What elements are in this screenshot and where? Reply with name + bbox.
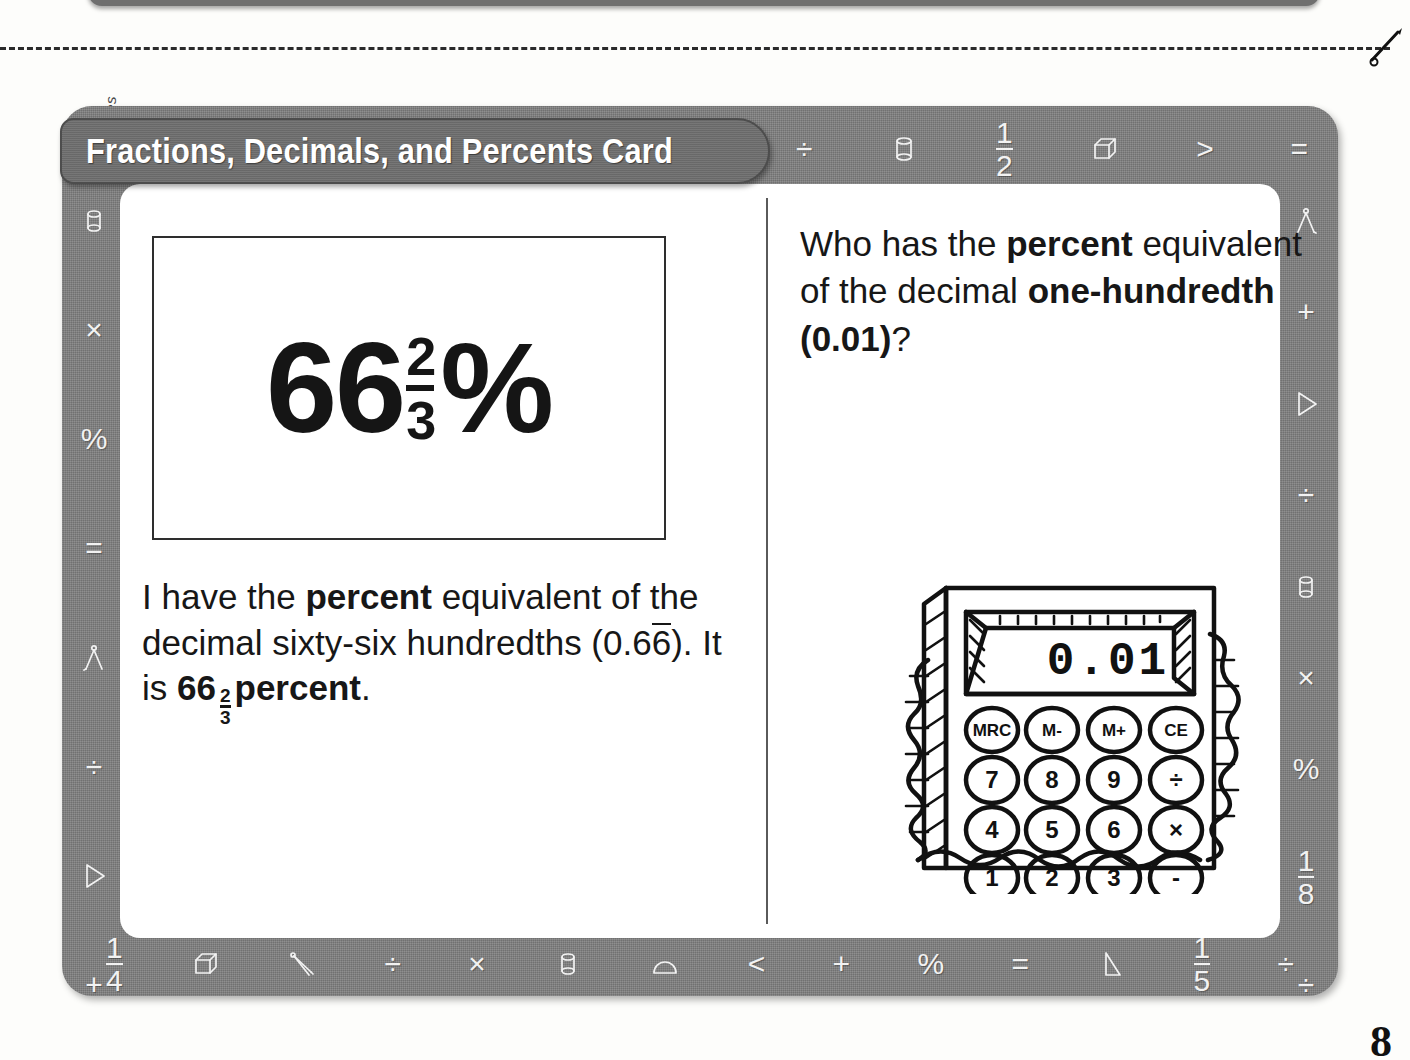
less-than-icon: < [748,949,766,979]
divide-icon: ÷ [385,949,401,979]
compass-icon [79,643,109,673]
question-text-c: ? [891,319,910,358]
greater-than-icon: > [1196,134,1214,164]
answer-box: 66 2 3 % [152,236,666,540]
cone-icon [1291,389,1321,419]
calculator-key-4: 4 [985,816,999,843]
calculator-key-m-minus: M- [1042,721,1062,740]
calculator-key-2: 2 [1045,864,1058,891]
multiply-icon: × [1297,663,1315,693]
protractor-icon [650,949,680,979]
one-eighth-fraction-icon: 1 8 [1298,846,1315,909]
one-half-fraction-icon: 1 2 [996,118,1013,181]
flash-card: ÷ 1 2 > = × % = ÷ + + [62,106,1338,996]
repeating-decimal-overline: 6 [652,623,671,660]
cylinder-icon [889,134,919,164]
statement-text-3b: ). [671,623,692,662]
answer-value: 66 2 3 % [266,329,552,447]
calculator-key-5: 5 [1045,816,1058,843]
previous-card-bottom-edge [88,0,1320,6]
cylinder-icon [79,206,109,236]
statement-value-whole: 66 [177,668,216,707]
card-title: Fractions, Decimals, and Percents Card [86,131,673,171]
i-have-statement: I have the percent equivalent of the dec… [142,574,732,727]
calculator-illustration: 0.01 MRC M- M+ CE 7 8 [880,564,1280,894]
statement-bold-percent: percent [305,577,431,616]
calculator-key-7: 7 [985,766,998,793]
one-fifth-fraction-icon: 1 5 [1194,933,1211,996]
calculator-key-minus: - [1172,864,1180,891]
statement-value-fraction: 23 [220,686,231,727]
statement-unit-percent: percent [235,668,361,707]
cut-along-dashed-line [0,47,1390,50]
percent-icon: % [1293,754,1320,784]
statement-text-1: I have the [142,577,305,616]
cone-icon [1096,949,1126,979]
calculator-key-ce: CE [1164,721,1188,740]
calculator-key-mrc: MRC [973,721,1012,740]
who-has-question: Who has the percent equivalent of the de… [800,220,1310,362]
answer-fraction: 2 3 [406,329,434,447]
cube-icon [190,949,220,979]
calculator-key-8: 8 [1045,766,1058,793]
question-bold-percent: percent [1006,224,1132,263]
statement-fraction-denominator: 3 [220,705,231,727]
multiply-icon: × [468,949,486,979]
calculator-key-6: 6 [1107,816,1120,843]
answer-fraction-numerator: 2 [406,329,434,383]
equals-icon: = [85,533,103,563]
statement-text-4b: . [361,668,371,707]
statement-fraction-numerator: 2 [220,686,231,705]
divide-icon: ÷ [1278,949,1294,979]
compass-icon [287,949,317,979]
calculator-key-1: 1 [985,864,998,891]
panel-divider [766,198,768,924]
calculator-key-9: 9 [1107,766,1120,793]
cone-icon [79,861,109,891]
card-title-banner: Fractions, Decimals, and Percents Card [60,118,770,184]
divide-icon: ÷ [796,134,812,164]
calculator-key-m-plus: M+ [1102,721,1126,740]
border-icon-strip-top: ÷ 1 2 > = [774,118,1330,180]
answer-fraction-denominator: 3 [406,385,434,447]
calculator-key-3: 3 [1107,864,1120,891]
divide-icon: ÷ [1298,480,1314,510]
calculator-display-value: 0.01 [1047,636,1169,688]
divide-icon: ÷ [86,752,102,782]
plus-icon: + [833,949,851,979]
equals-icon: = [1290,134,1308,164]
one-quarter-fraction-icon: 1 4 [106,933,123,996]
cylinder-icon [553,949,583,979]
statement-text-3a: sixty-six hundredths (0.6 [272,623,651,662]
equals-icon: = [1011,949,1029,979]
answer-whole-number: 66 [266,330,404,445]
border-icon-strip-left: × % = ÷ + [68,192,120,1014]
calculator-key-multiply: × [1169,816,1183,843]
card-face: 66 2 3 % I have the percent equivalent o… [120,184,1280,938]
percent-icon: % [81,424,108,454]
cylinder-icon [1291,572,1321,602]
question-text-a: Who has the [800,224,1006,263]
page-number: 8 [1370,1016,1392,1060]
cube-icon [1089,134,1119,164]
scissors-icon [1368,26,1408,68]
border-icon-strip-bottom: 1 4 ÷ × < + % = 1 5 ÷ [80,938,1320,990]
calculator-key-divide: ÷ [1169,766,1182,793]
percent-icon: % [917,949,944,979]
multiply-icon: × [85,315,103,345]
answer-percent-sign: % [440,330,552,445]
